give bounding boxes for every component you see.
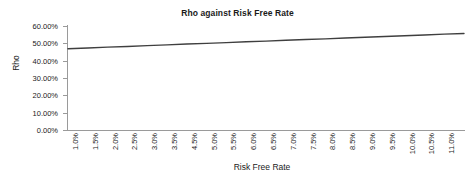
x-tick-label: 7.0% [289,133,298,150]
chart-title: Rho against Risk Free Rate [0,8,475,18]
y-tick-mark [63,95,68,96]
x-tick-label: 9.0% [368,133,377,150]
y-tick-label: 20.00% [14,91,58,100]
x-tick-label: 9.5% [388,133,397,150]
x-tick-label: 3.0% [150,133,159,150]
x-axis-line [67,130,465,131]
plot-area [68,26,464,130]
x-tick-label: 4.5% [190,133,199,150]
y-tick-label: 10.00% [14,108,58,117]
y-tick-mark [63,26,68,27]
x-tick-label: 2.0% [111,133,120,150]
y-tick-mark [63,130,68,131]
x-tick-label: 11.0% [447,133,456,154]
x-tick-label: 5.5% [229,133,238,150]
x-tick-label: 10.0% [408,133,417,154]
x-tick-label: 6.0% [249,133,258,150]
y-tick-label: 60.00% [14,22,58,31]
y-tick-mark [63,61,68,62]
chart-container: Rho against Risk Free Rate Rho 0.00%10.0… [0,0,475,178]
y-tick-label: 30.00% [14,74,58,83]
y-tick-label: 50.00% [14,39,58,48]
x-tick-label: 2.5% [130,133,139,150]
x-tick-label: 6.5% [269,133,278,150]
x-tick-label: 8.5% [348,133,357,150]
x-tick-label: 7.5% [309,133,318,150]
x-tick-label: 5.0% [210,133,219,150]
y-tick-label: 40.00% [14,56,58,65]
y-tick-mark [63,78,68,79]
x-axis-title: Risk Free Rate [62,162,462,172]
y-tick-mark [63,113,68,114]
x-tick-label: 1.0% [71,133,80,150]
x-tick-label: 3.5% [170,133,179,150]
x-tick-label: 8.0% [328,133,337,150]
x-tick-label: 1.5% [91,133,100,150]
y-tick-mark [63,43,68,44]
y-tick-label: 0.00% [14,126,58,135]
x-tick-label: 10.5% [427,133,436,154]
